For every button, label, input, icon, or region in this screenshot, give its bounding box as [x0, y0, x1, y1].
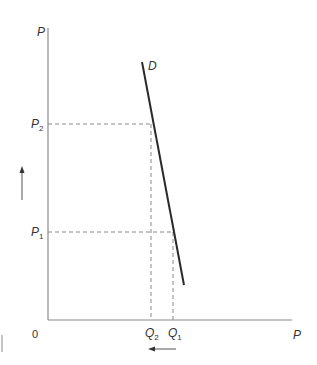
quantity-decrease-arrow-icon: [148, 347, 176, 352]
curve-label-d: D: [148, 59, 157, 73]
p1-label: P1: [31, 225, 44, 241]
q2-label: Q2: [145, 326, 159, 342]
demand-curve: [142, 62, 184, 285]
chart-canvas: P P 0 D P2 P1 Q2 Q1: [0, 0, 317, 365]
origin-label: 0: [32, 328, 38, 340]
q1-label: Q1: [168, 326, 182, 342]
price-increase-arrow-icon: [20, 166, 25, 200]
y-axis-label: P: [37, 25, 45, 39]
x-axis-label: P: [293, 328, 301, 342]
p2-label: P2: [31, 117, 44, 133]
